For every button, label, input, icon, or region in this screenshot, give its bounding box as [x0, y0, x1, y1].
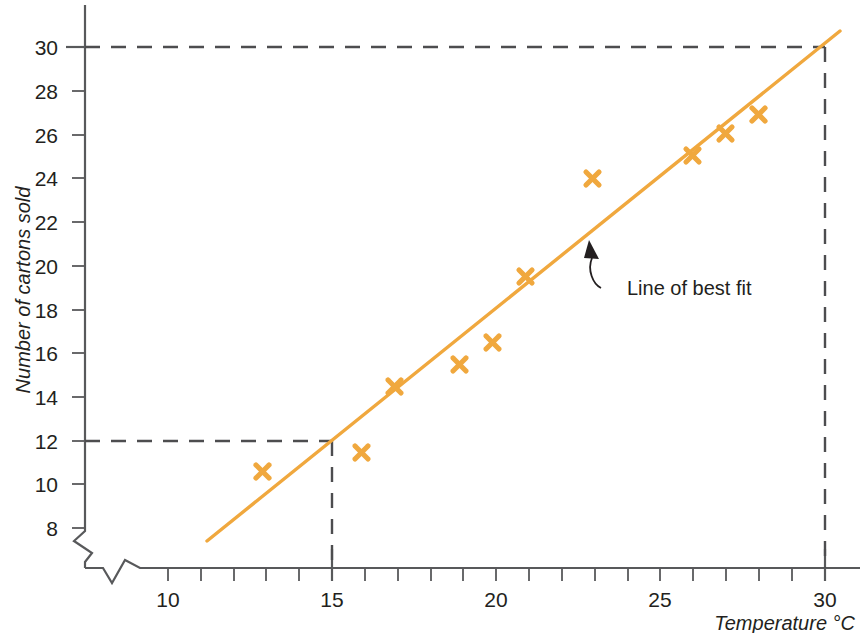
y-axis-ticks — [66, 47, 85, 528]
annotation-arrow-curve — [590, 258, 601, 288]
x-tick-label: 25 — [648, 588, 671, 611]
y-tick-label: 14 — [35, 386, 59, 409]
x-tick-label: 10 — [156, 588, 179, 611]
data-point-marker — [719, 127, 732, 140]
x-axis-title: Temperature °C — [714, 612, 855, 633]
data-point-marker — [519, 270, 532, 283]
x-tick-label: 30 — [813, 588, 836, 611]
y-tick-label: 8 — [46, 517, 58, 540]
x-tick-label: 15 — [320, 588, 343, 611]
y-tick-label: 16 — [35, 342, 58, 365]
y-tick-label: 22 — [35, 211, 58, 234]
y-tick-label: 18 — [35, 299, 58, 322]
guide-lines — [85, 47, 825, 568]
y-tick-label: 12 — [35, 430, 58, 453]
y-tick-label: 24 — [35, 167, 59, 190]
y-tick-label: 30 — [35, 36, 58, 59]
data-point-marker — [355, 446, 368, 459]
y-tick-label: 28 — [35, 80, 58, 103]
y-axis-title: Number of cartons sold — [12, 186, 34, 394]
best-fit-annotation: Line of best fit — [584, 240, 752, 299]
data-point-marker — [752, 108, 765, 121]
data-point-marker — [453, 358, 466, 371]
y-tick-label: 26 — [35, 124, 58, 147]
data-point-marker — [586, 172, 599, 185]
x-axis-tick-labels: 10 15 20 25 30 — [156, 588, 836, 611]
annotation-arrow-head — [584, 240, 599, 259]
scatter-chart: 30 28 26 24 22 20 18 16 14 12 10 8 — [0, 0, 866, 633]
y-axis-tick-labels: 30 28 26 24 22 20 18 16 14 12 10 8 — [35, 36, 59, 540]
data-point-marker — [486, 336, 499, 349]
data-point-marker — [256, 465, 269, 478]
y-tick-label: 20 — [35, 255, 58, 278]
annotation-label: Line of best fit — [627, 277, 752, 299]
x-axis-ticks — [168, 549, 825, 581]
chart-canvas: 30 28 26 24 22 20 18 16 14 12 10 8 — [0, 0, 866, 633]
x-tick-label: 20 — [484, 588, 507, 611]
y-tick-label: 10 — [35, 473, 58, 496]
